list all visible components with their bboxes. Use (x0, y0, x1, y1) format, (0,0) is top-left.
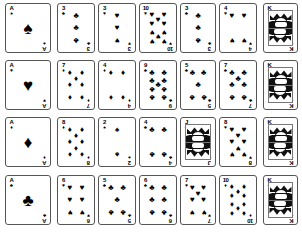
playing-card-4-of-hearts[interactable]: 4♥4♥♥♥♥♥ (219, 3, 257, 53)
diamonds-pip-icon: ♦ (68, 150, 72, 158)
hearts-pip-icon: ♥ (229, 138, 234, 146)
card-pip-field: ♣♣♣♣♣♣♣♣♣ (147, 68, 169, 102)
face-card-robe-panel (192, 136, 204, 141)
diamonds-pip-icon: ♦ (236, 188, 240, 196)
playing-card-3-of-clubs[interactable]: 3♣3♣♣♣♣ (180, 3, 216, 53)
playing-card-face: 6♥6♥♥♥♥♥♥♥ (58, 176, 94, 224)
playing-card-face: 2♠2♠♠♠ (99, 118, 135, 166)
card-pip-field: ♣♣♣ (65, 11, 87, 45)
hearts-pip-icon: ♥ (229, 12, 234, 20)
clubs-pip-icon: ♣ (108, 184, 113, 192)
face-card-half-bot (186, 142, 210, 159)
playing-card-7-of-hearts[interactable]: 7♥7♥♥♥♥♥♥♥♥ (180, 175, 216, 225)
diamonds-pip-icon: ♦ (68, 81, 72, 89)
diamonds-pip-icon: ♦ (74, 132, 78, 140)
face-card-divider (269, 85, 292, 86)
playing-card-7-of-clubs[interactable]: 7♣7♣♣♣♣♣♣♣♣ (219, 60, 257, 110)
card-pip-field: ♦♦♦♦♦♦♦♦ (65, 125, 87, 159)
face-card-art-frame (268, 10, 293, 46)
card-pip-field: ♥♥♥♥♥♥♥♥♥♥ (147, 11, 169, 45)
playing-card-10-of-hearts[interactable]: 10♥10♥♥♥♥♥♥♥♥♥♥♥ (139, 3, 177, 53)
diamonds-pip-icon: ♦ (230, 209, 234, 217)
clubs-pip-icon: ♣ (149, 85, 154, 93)
clubs-pip-icon: ♣ (121, 208, 126, 216)
playing-card-a-of-spades[interactable]: A♠A♠♠ (5, 3, 51, 53)
clubs-pip-icon: ♣ (229, 69, 234, 77)
playing-card-6-of-hearts[interactable]: 6♥6♥♥♥♥♥♥♥ (57, 175, 95, 225)
clubs-pip-icon: ♣ (149, 184, 154, 192)
face-card-art-frame (185, 124, 211, 160)
playing-card-3-of-hearts[interactable]: 3♥3♥♥♥♥ (98, 3, 136, 53)
playing-card-5-of-clubs[interactable]: 5♣5♣♣♣♣♣♣ (180, 60, 216, 110)
card-pip-field: ♦♦♦♦♦♦♦♦♦♦ (227, 183, 249, 217)
playing-card-k-of-clubs[interactable]: K♣K♣ (263, 60, 298, 110)
face-card-half-bot (269, 142, 292, 159)
playing-card-face: 10♥10♥♥♥♥♥♥♥♥♥♥♥ (140, 4, 176, 52)
playing-card-face: 4♥4♥♥♥♥♥ (220, 4, 256, 52)
hearts-pip-icon: ♥ (149, 37, 154, 45)
diamonds-pip-icon: ♦ (68, 93, 72, 101)
face-card-robe (269, 85, 292, 92)
playing-card-j-of-clubs[interactable]: J♣J♣ (180, 117, 216, 167)
face-card-robe-panel (275, 86, 287, 91)
hearts-pip-icon: ♥ (115, 24, 120, 32)
playing-card-face: 3♣3♣♣♣♣ (58, 4, 94, 52)
playing-card-face: 8♦8♦♦♦♦♦♦♦♦♦ (58, 118, 94, 166)
playing-card-face: A♠A♠♠ (6, 4, 50, 52)
clubs-pip-icon: ♣ (235, 75, 240, 83)
card-pip-field: ♣ (13, 183, 43, 217)
playing-card-6-of-clubs[interactable]: 6♣6♣♣♣♣♣♣♣ (139, 175, 177, 225)
clubs-pip-icon: ♣ (114, 196, 119, 204)
diamonds-pip-icon: ♦ (80, 138, 84, 146)
clubs-pip-icon: ♣ (162, 93, 167, 101)
playing-card-face: 5♣5♣♣♣♣♣♣ (99, 176, 135, 224)
spades-pip-icon: ♠ (23, 20, 32, 37)
playing-card-3-of-clubs[interactable]: 3♣3♣♣♣♣ (57, 3, 95, 53)
playing-card-a-of-diamonds[interactable]: A♦A♦♦ (5, 117, 51, 167)
card-pip-field: ♦♦♦♦♦♦♦ (65, 68, 87, 102)
card-pip-field: ♠♠ (106, 125, 128, 159)
playing-card-k-of-clubs[interactable]: K♣K♣ (263, 117, 298, 167)
hearts-pip-icon: ♥ (242, 150, 247, 158)
clubs-pip-icon: ♣ (190, 69, 195, 77)
playing-card-a-of-hearts[interactable]: A♥A♥♥ (5, 60, 51, 110)
playing-card-a-of-clubs[interactable]: A♣A♣♣ (5, 175, 51, 225)
playing-card-2-of-spades[interactable]: 2♠2♠♠♠ (98, 117, 136, 167)
hearts-pip-icon: ♥ (149, 20, 154, 28)
clubs-pip-icon: ♣ (22, 192, 33, 209)
face-card-divider (269, 200, 292, 201)
playing-card-face: 10♦10♦♦♦♦♦♦♦♦♦♦♦ (220, 176, 256, 224)
playing-card-k-of-clubs[interactable]: K♣K♣ (263, 175, 298, 225)
playing-card-5-of-clubs[interactable]: 5♣5♣♣♣♣♣♣ (98, 175, 136, 225)
card-pip-field: ♣♣♣♣♣ (106, 183, 128, 217)
face-card-robe (269, 21, 292, 28)
hearts-pip-icon: ♥ (196, 190, 201, 198)
hearts-pip-icon: ♥ (236, 132, 241, 140)
hearts-pip-icon: ♥ (242, 12, 247, 20)
card-pip-field: ♣♣♣♣♣♣♣ (227, 68, 249, 102)
card-pip-field: ♦♦♦♦ (106, 68, 128, 102)
playing-card-4-of-clubs[interactable]: 4♣4♣♣♣♣♣ (139, 117, 177, 167)
diamonds-pip-icon: ♦ (109, 93, 113, 101)
card-pip-field: ♣♣♣♣ (147, 125, 169, 159)
playing-card-face: K♣K♣ (264, 4, 297, 52)
playing-card-10-of-diamonds[interactable]: 10♦10♦♦♦♦♦♦♦♦♦♦♦ (219, 175, 257, 225)
face-card-half-top (269, 11, 292, 28)
playing-card-9-of-clubs[interactable]: 9♣9♣♣♣♣♣♣♣♣♣♣ (139, 60, 177, 110)
diamonds-pip-icon: ♦ (109, 69, 113, 77)
playing-card-8-of-hearts[interactable]: 8♥8♥♥♥♥♥♥♥♥♥ (219, 117, 257, 167)
card-pip-field: ♠ (13, 11, 43, 45)
card-pip-field: ♣♣♣♣♣♣ (147, 183, 169, 217)
face-card-half-bot (269, 85, 292, 102)
hearts-pip-icon: ♥ (201, 184, 206, 192)
clubs-pip-icon: ♣ (190, 93, 195, 101)
face-card-robe-panel (192, 143, 204, 148)
playing-card-8-of-diamonds[interactable]: 8♦8♦♦♦♦♦♦♦♦♦ (57, 117, 95, 167)
playing-card-4-of-diamonds[interactable]: 4♦4♦♦♦♦♦ (98, 60, 136, 110)
playing-card-7-of-diamonds[interactable]: 7♦7♦♦♦♦♦♦♦♦ (57, 60, 95, 110)
face-card-robe-panel (275, 136, 287, 141)
face-card-half-top (269, 183, 292, 200)
clubs-pip-icon: ♣ (149, 150, 154, 158)
playing-card-k-of-clubs[interactable]: K♣K♣ (263, 3, 298, 53)
hearts-pip-icon: ♥ (80, 208, 85, 216)
